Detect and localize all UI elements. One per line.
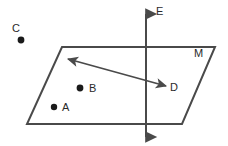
label-line-d: D (170, 82, 178, 93)
label-point-b: B (89, 83, 96, 94)
label-point-a: A (62, 102, 69, 113)
geometry-diagram: E M D A B C (0, 0, 228, 146)
point-c-dot (18, 37, 25, 44)
plane-m-parallelogram (27, 47, 215, 124)
point-b-dot (77, 85, 84, 92)
label-plane-m: M (194, 48, 203, 59)
diagram-canvas (0, 0, 228, 146)
point-a-dot (51, 104, 57, 110)
label-point-c: C (12, 23, 20, 34)
label-line-e: E (156, 6, 163, 17)
